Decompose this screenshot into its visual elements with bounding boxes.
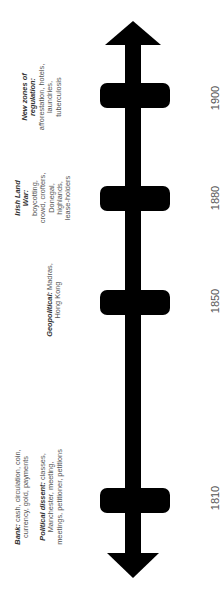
note-line: lease-holders xyxy=(64,173,72,224)
note-line: meetings, petitioner, petitions xyxy=(56,449,64,545)
marker-1810 xyxy=(100,488,170,513)
arrow-down-icon xyxy=(107,553,159,578)
marker-1900 xyxy=(100,83,170,108)
note-line: currency, gold, payments xyxy=(22,449,30,545)
marker-1880 xyxy=(100,186,170,211)
marker-1850 xyxy=(100,290,170,315)
note-line: Hong Kong xyxy=(54,263,62,337)
note-line: tuberculosis xyxy=(55,64,63,130)
